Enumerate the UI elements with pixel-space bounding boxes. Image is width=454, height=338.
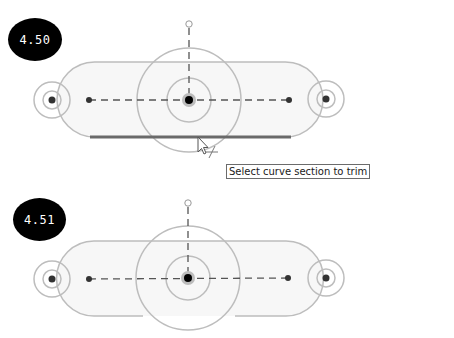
vertical-endpoint-open[interactable]	[186, 21, 192, 27]
right-center-point[interactable]	[323, 96, 330, 103]
right-center-point[interactable]	[323, 275, 330, 282]
right-point[interactable]	[286, 97, 292, 103]
trim-tooltip: Select curve section to trim	[226, 164, 370, 179]
sketch-figure-after-trim	[34, 200, 344, 330]
left-center-point[interactable]	[49, 97, 56, 104]
left-point[interactable]	[86, 276, 92, 282]
sketch-figure-before-trim	[34, 21, 344, 158]
center-point[interactable]	[184, 274, 192, 282]
vertical-endpoint-open[interactable]	[185, 200, 191, 206]
right-point[interactable]	[285, 275, 291, 281]
center-point[interactable]	[185, 96, 193, 104]
left-center-point[interactable]	[49, 276, 56, 283]
left-point[interactable]	[86, 97, 92, 103]
